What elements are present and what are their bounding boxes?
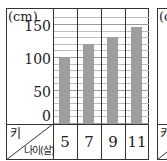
bar-age-7 <box>83 44 94 124</box>
ytick-100-wrap: 100 <box>6 52 51 66</box>
ytick-50-wrap: 50 <box>6 85 51 99</box>
bar-age-9 <box>107 37 118 124</box>
second-panel-diagonal <box>157 150 167 160</box>
row-header-age: 나이(살) <box>24 145 54 157</box>
xlabel-11: 11 <box>125 134 149 150</box>
ytick-50: 50 <box>33 85 51 99</box>
ytick-100: 100 <box>24 52 51 66</box>
xlabel-7: 7 <box>77 134 101 150</box>
xlabel-5: 5 <box>53 134 77 150</box>
bar-age-5 <box>59 57 70 124</box>
second-panel-unit: (c <box>159 10 167 23</box>
second-panel-header: 키 <box>160 128 167 140</box>
column-divider <box>101 8 102 160</box>
ytick-150: 150 <box>24 19 51 33</box>
row-header-height: 키 <box>10 128 21 140</box>
bar-age-11 <box>131 27 142 124</box>
ytick-150-wrap: 150 <box>6 19 51 33</box>
ytick-0: 0 <box>42 109 51 123</box>
column-divider <box>77 8 78 160</box>
xlabel-9: 9 <box>101 134 125 150</box>
ytick-0-wrap: 0 <box>6 109 51 123</box>
column-divider <box>125 8 126 160</box>
second-panel-divider <box>157 124 167 125</box>
